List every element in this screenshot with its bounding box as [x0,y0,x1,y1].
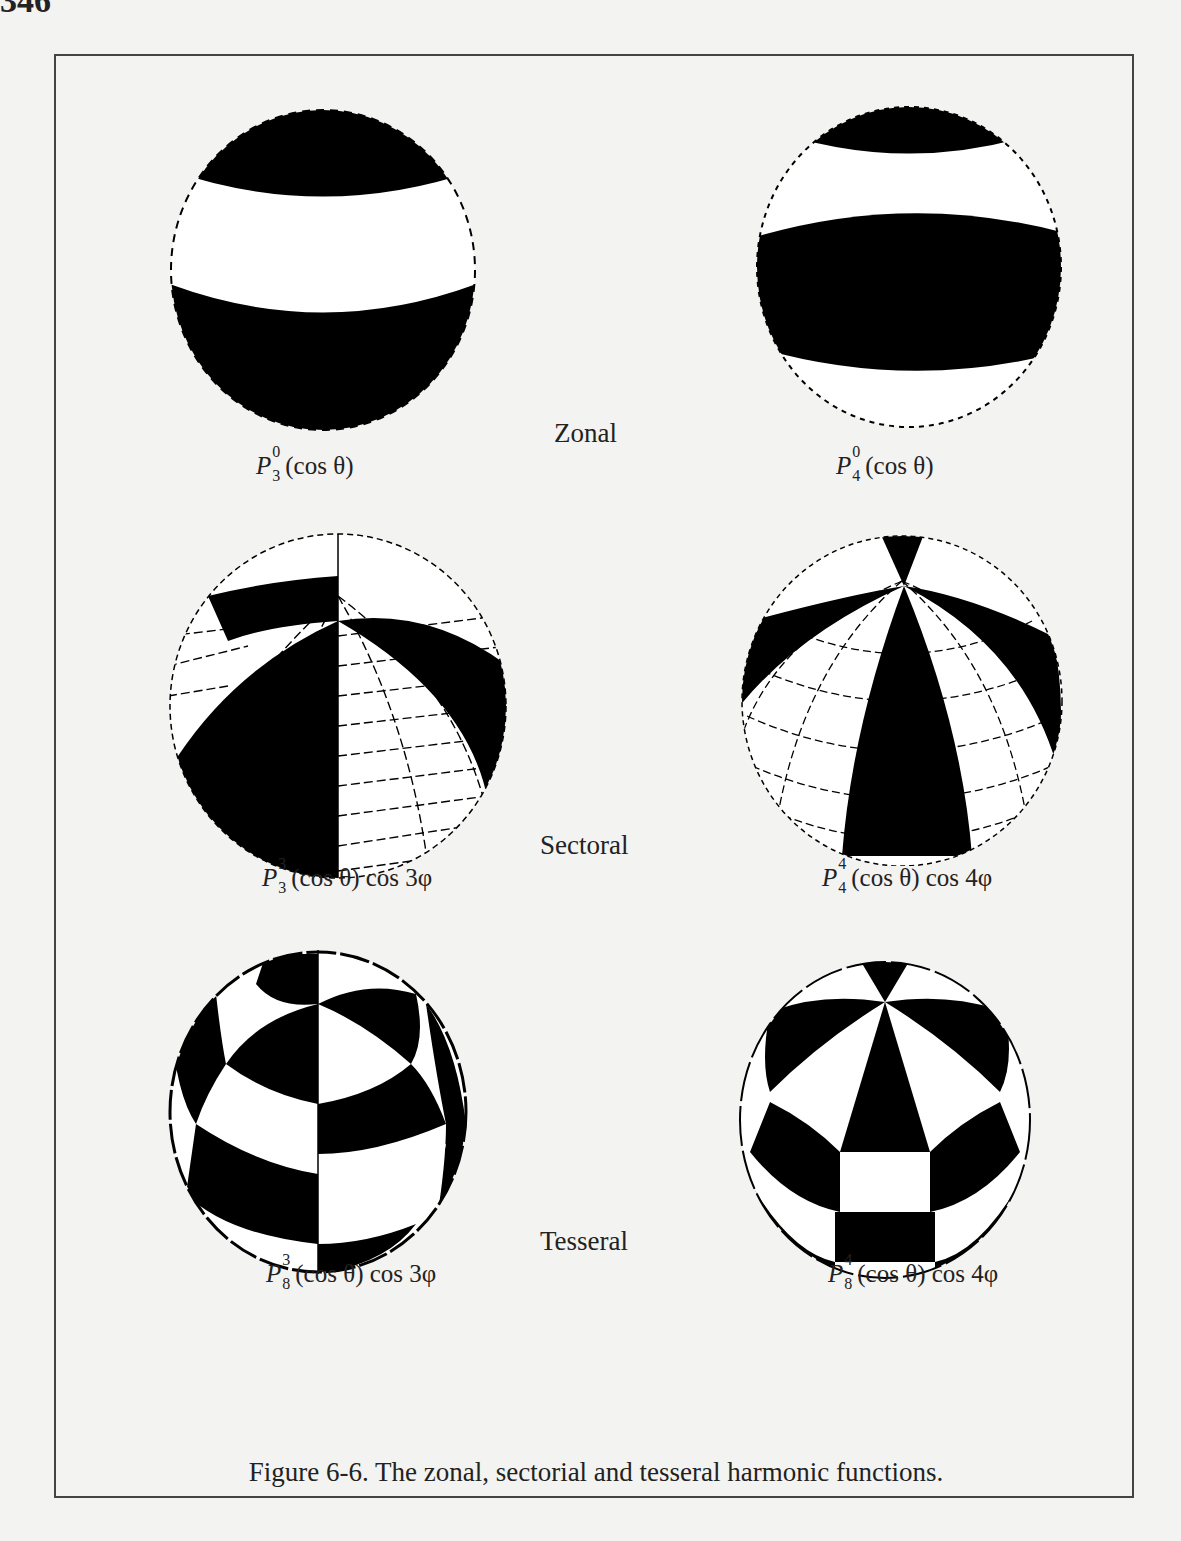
sphere-tesseral-p8-4 [730,952,1040,1282]
sphere-sectoral-p3-3 [168,526,528,881]
formula-tesseral-right: P48(cos θ) cos 4φ [828,1260,998,1288]
category-label-tesseral: Tesseral [540,1226,628,1257]
zonal-p4-sphere-icon [744,92,1074,437]
figure-frame: Zonal P03(cos θ) P04(cos θ) [54,54,1134,1498]
sphere-sectoral-p4-4 [732,526,1072,866]
zonal-p3-sphere-icon [164,80,482,445]
category-label-sectoral: Sectoral [540,830,628,861]
figure-caption: Figure 6-6. The zonal, sectorial and tes… [56,1457,1136,1488]
category-label-zonal: Zonal [554,418,617,449]
sectoral-p4-sphere-icon [732,526,1072,866]
formula-sectoral-right: P44(cos θ) cos 4φ [822,864,992,892]
page-number: 346 [0,0,51,20]
sphere-tesseral-p8-3 [166,944,476,1274]
tesseral-p8-4-sphere-icon [730,952,1040,1282]
formula-sectoral-left: P33(cos θ) cos 3φ [262,864,432,892]
sphere-zonal-p3-0 [164,80,482,445]
tesseral-p8-3-sphere-icon [166,944,476,1274]
sectoral-p3-sphere-icon [168,526,528,881]
sphere-zonal-p4-0 [744,92,1074,437]
formula-tesseral-left: P38(cos θ) cos 3φ [266,1260,436,1288]
formula-zonal-right: P04(cos θ) [836,452,933,480]
formula-zonal-left: P03(cos θ) [256,452,353,480]
